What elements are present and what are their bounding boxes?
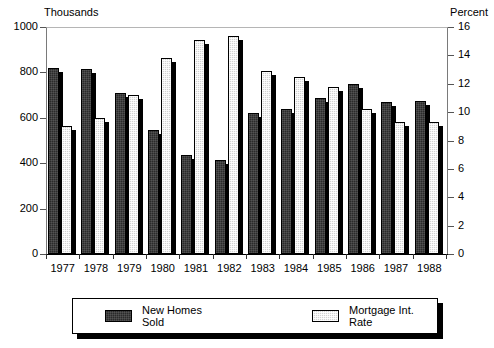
left-axis-caption: Thousands [44,6,98,18]
legend-item-label: New Homes Sold [142,304,224,328]
x-axis-tick [146,254,147,259]
bar[interactable] [215,160,226,254]
bar-side-face [172,62,176,254]
left-axis-tick-label: 200 [20,203,38,214]
bar[interactable] [148,130,159,254]
bar[interactable] [194,40,205,254]
right-axis-tick [448,27,454,28]
right-axis-tick [448,169,454,170]
left-axis-tick-label: 800 [20,66,38,77]
bar[interactable] [348,84,359,254]
bar[interactable] [48,68,59,254]
dark-swatch-icon [105,310,132,322]
bar-front-face [228,36,239,254]
right-axis-tick-label: 12 [458,78,470,89]
right-axis-tick-label: 4 [458,191,464,202]
bar-side-face [405,126,409,254]
x-axis-tick-label: 1988 [409,262,449,274]
bar-front-face [281,109,292,254]
bar-side-face [372,113,376,254]
right-axis-tick [448,55,454,56]
bar[interactable] [128,95,139,254]
bar-front-face [81,69,92,254]
left-axis-tick-label: 1000 [14,21,38,32]
bar-front-face [115,93,126,254]
bar-front-face [128,95,139,254]
bar-front-face [415,101,426,254]
right-axis-tick [448,226,454,227]
left-axis-tick-label: 400 [20,157,38,168]
bar[interactable] [428,122,439,254]
bar[interactable] [381,102,392,254]
x-axis-baseline [46,254,448,255]
bar-side-face [339,91,343,254]
bar[interactable] [394,122,405,254]
bar-front-face [94,118,105,254]
right-axis-caption: Percent [450,6,488,18]
right-axis-tick-label: 0 [458,248,464,259]
bar-side-face [272,75,276,254]
bar-front-face [261,71,272,254]
bar-front-face [381,102,392,254]
bar-side-face [139,99,143,254]
bar-front-face [248,113,259,254]
legend-item[interactable]: Mortgage Int. Rate [312,304,437,328]
bar[interactable] [361,109,372,254]
bar-front-face [294,77,305,254]
bar-front-face [361,109,372,254]
bar-front-face [328,87,339,254]
bar[interactable] [181,155,192,254]
x-axis-tick [179,254,180,259]
light-swatch-icon [312,310,339,322]
bar[interactable] [415,101,426,254]
bar-front-face [48,68,59,254]
legend-item-label: Mortgage Int. Rate [349,304,437,328]
bar-side-face [72,130,76,254]
bar[interactable] [228,36,239,254]
bar[interactable] [328,87,339,254]
bar-side-face [439,126,443,254]
bar[interactable] [248,113,259,254]
right-axis-tick-label: 14 [458,49,470,60]
left-axis-tick [40,163,46,164]
right-axis-tick [448,112,454,113]
right-axis-tick-label: 8 [458,135,464,146]
x-axis-tick [379,254,380,259]
x-axis-tick [413,254,414,259]
bar[interactable] [261,71,272,254]
bar-front-face [148,130,159,254]
left-axis-tick-label: 0 [32,248,38,259]
x-axis-tick [113,254,114,259]
bar[interactable] [115,93,126,254]
bar[interactable] [281,109,292,254]
right-axis-tick [448,254,454,255]
bar[interactable] [81,69,92,254]
bar-side-face [239,40,243,254]
legend-item[interactable]: New Homes Sold [105,304,224,328]
bar[interactable] [315,98,326,254]
right-axis-tick [448,84,454,85]
right-axis-tick-label: 2 [458,220,464,231]
x-axis-tick [213,254,214,259]
bar[interactable] [161,58,172,254]
x-axis-tick [346,254,347,259]
right-axis-tick [448,141,454,142]
left-axis-tick-label: 600 [20,112,38,123]
x-axis-tick [279,254,280,259]
bar[interactable] [61,126,72,254]
right-axis-tick-label: 6 [458,163,464,174]
bar-front-face [394,122,405,254]
right-axis-tick-label: 10 [458,106,470,117]
left-axis-tick [40,209,46,210]
right-axis-tick [448,197,454,198]
bar-chart: Thousands Percent 02004006008001000 0246… [0,0,494,348]
bar-side-face [305,81,309,254]
bar-side-face [205,44,209,254]
bar-front-face [161,58,172,254]
right-axis-tick-label: 16 [458,21,470,32]
bar[interactable] [294,77,305,254]
bar-front-face [348,84,359,254]
x-axis-tick [79,254,80,259]
bar[interactable] [94,118,105,254]
x-axis-tick [246,254,247,259]
